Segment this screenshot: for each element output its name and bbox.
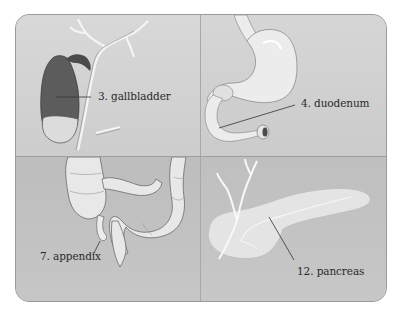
panel-appendix: 7. appendix [16,157,200,301]
panel-pancreas: 12. pancreas [201,157,386,301]
duodenum-label: 4. duodenum [301,97,369,109]
panel-gallbladder: 3. gallbladder [16,15,200,156]
appendix-shape [97,215,107,241]
horizontal-divider [16,156,386,157]
gallbladder-label: 3. gallbladder [98,90,171,102]
panel-duodenum: 4. duodenum [201,15,386,156]
colon-appendix-illustration [16,157,200,301]
appendix-label: 7. appendix [40,250,101,262]
pancreas-label: 12. pancreas [297,265,364,277]
pancreas-shape [208,188,370,258]
stomach-duodenum-illustration [201,15,386,156]
pancreas-illustration [201,157,386,301]
cecum-shape [66,157,106,219]
anatomy-figure-frame: 3. gallbladder 4. duodenum [15,14,387,302]
duodenum-leader-line [219,105,295,128]
vertical-divider [200,15,201,301]
gallbladder-illustration [16,15,200,156]
